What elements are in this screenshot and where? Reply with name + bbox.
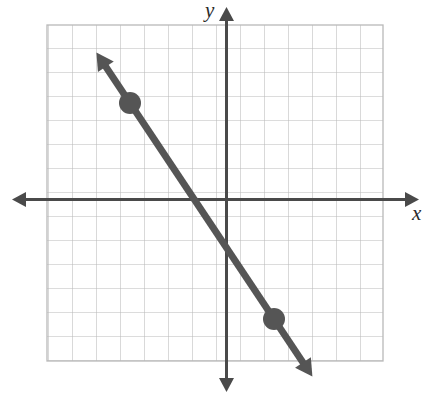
plotted-point-b — [263, 308, 285, 330]
y-axis-label: y — [205, 0, 214, 21]
x-axis-left-arrowhead — [12, 192, 26, 207]
grid-group — [47, 25, 383, 361]
coordinate-plane-svg — [0, 0, 430, 399]
plotted-point-a — [119, 92, 141, 114]
y-axis-bottom-arrowhead — [219, 378, 234, 392]
y-axis-top-arrowhead — [219, 7, 234, 21]
graph-figure: y x — [0, 0, 430, 399]
x-axis-label: x — [412, 203, 421, 224]
grid-area — [47, 25, 383, 361]
